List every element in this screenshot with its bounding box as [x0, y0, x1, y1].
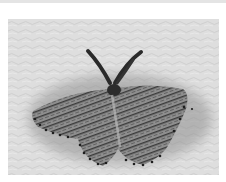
moth-photo [8, 19, 219, 175]
top-band [0, 0, 226, 3]
